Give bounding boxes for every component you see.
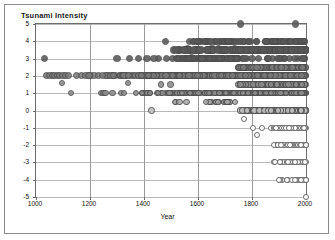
x-axis-title: Year: [5, 213, 330, 220]
x-tick-label-1200: 1200: [69, 200, 109, 207]
x-tick-label-2000: 2000: [285, 200, 325, 207]
x-tick-label-1600: 1600: [177, 200, 217, 207]
tsunami-intensity-scatter-chart: Tsunami Intensity 543210-1-2-3-4-5 10001…: [5, 5, 330, 235]
chart-frame: Tsunami Intensity 543210-1-2-3-4-5 10001…: [4, 4, 329, 234]
x-tick-label-1800: 1800: [231, 200, 271, 207]
x-axis-tick-labels: 100012001400160018002000: [5, 5, 330, 235]
x-tick-label-1000: 1000: [15, 200, 55, 207]
x-tick-label-1400: 1400: [123, 200, 163, 207]
